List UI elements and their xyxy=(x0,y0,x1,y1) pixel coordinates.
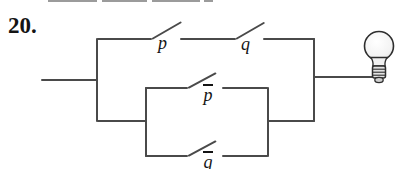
switch-notp-label: p xyxy=(201,84,215,103)
wire-input-lead xyxy=(41,79,97,81)
switch-q-blade xyxy=(236,21,266,39)
remnant-segment xyxy=(48,0,97,2)
wire-outer-right xyxy=(313,38,315,122)
wire-top-segment-2 xyxy=(180,38,236,40)
wire-inner-right xyxy=(267,87,269,157)
wire-top-segment-3 xyxy=(263,38,315,40)
figure-canvas: 20. p q p xyxy=(0,0,403,169)
bulb-neck xyxy=(371,58,387,67)
wire-outer-left xyxy=(96,38,98,122)
bulb-globe xyxy=(365,32,394,61)
switch-notq-label: q xyxy=(201,151,215,169)
wire-notp-segment-2 xyxy=(222,87,268,89)
remnant-segment xyxy=(152,0,200,2)
wire-notq-segment-2 xyxy=(222,155,268,157)
switch-p-label: p xyxy=(158,35,167,51)
remnant-segment xyxy=(102,0,147,2)
problem-number: 20. xyxy=(8,13,37,38)
switch-notp-letter: p xyxy=(204,87,213,103)
wire-top-segment-1 xyxy=(97,38,152,40)
light-bulb-icon xyxy=(357,27,403,87)
wire-rail-right xyxy=(267,120,315,122)
bulb-contact-tip xyxy=(375,77,383,82)
wire-inner-left xyxy=(145,87,147,157)
switch-q-label: q xyxy=(241,36,250,52)
wire-rail-left xyxy=(97,120,147,122)
wire-notp-segment-1 xyxy=(145,87,188,89)
remnant-segment xyxy=(204,0,213,2)
wire-notq-segment-1 xyxy=(145,155,188,157)
switch-notq-letter: q xyxy=(204,154,213,169)
